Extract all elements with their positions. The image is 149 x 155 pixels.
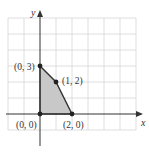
vertex-0-3	[38, 64, 43, 69]
label-2-0: (2, 0)	[63, 120, 84, 131]
vertex-0-0	[38, 112, 43, 117]
label-1-2: (1, 2)	[62, 76, 83, 87]
x-axis-label: x	[140, 117, 146, 128]
y-axis-label: y	[30, 7, 36, 18]
vertex-1-2	[54, 80, 59, 85]
feasible-region-graph: x y (0, 3) (1, 2) (0, 0) (2, 0)	[0, 0, 149, 155]
vertex-2-0	[70, 112, 75, 117]
label-0-0: (0, 0)	[16, 120, 37, 131]
y-axis-arrow-icon	[37, 10, 43, 17]
label-0-3: (0, 3)	[14, 62, 35, 73]
